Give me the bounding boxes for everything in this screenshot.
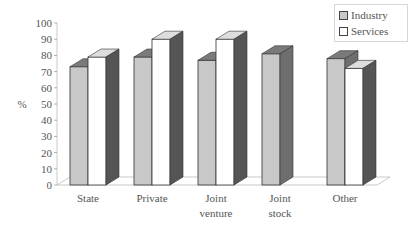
y-tick-label: 0 xyxy=(47,179,53,191)
y-tick-label: 70 xyxy=(41,66,53,78)
legend-label: Industry xyxy=(351,9,388,21)
y-tick-label: 50 xyxy=(41,98,53,110)
bar-side xyxy=(170,31,183,185)
bar-side xyxy=(234,31,247,185)
y-tick-label: 80 xyxy=(41,49,53,61)
y-axis-label: % xyxy=(17,98,26,110)
y-tick-label: 30 xyxy=(41,130,53,142)
bar-side xyxy=(106,49,119,185)
services-swatch-icon xyxy=(339,27,348,36)
bar-services-joint-venture xyxy=(216,39,234,185)
bar-side xyxy=(280,46,293,185)
bar-side xyxy=(363,60,376,185)
y-tick-label: 10 xyxy=(41,163,53,175)
x-tick-label: Joint xyxy=(205,192,226,204)
bar-services-other xyxy=(345,68,363,185)
y-tick-label: 90 xyxy=(41,33,53,45)
bar-industry-private xyxy=(134,57,152,185)
x-tick-label: stock xyxy=(268,207,292,219)
bar-industry-state xyxy=(70,67,88,185)
chart-legend: Industry Services xyxy=(334,4,408,42)
bar-industry-joint-venture xyxy=(198,60,216,185)
y-tick-label: 20 xyxy=(41,147,53,159)
bar-services-private xyxy=(152,39,170,185)
x-tick-label: Joint xyxy=(269,192,290,204)
bar-services-state xyxy=(88,57,106,185)
bar-industry-joint-stock xyxy=(262,54,280,185)
y-tick-label: 100 xyxy=(36,17,53,29)
legend-item-industry: Industry xyxy=(339,9,388,21)
industry-swatch-icon xyxy=(339,11,348,20)
bar-industry-other xyxy=(327,59,345,185)
x-tick-label: State xyxy=(77,192,99,204)
y-tick-label: 40 xyxy=(41,114,53,126)
x-tick-label: Other xyxy=(332,192,357,204)
y-tick-label: 60 xyxy=(41,82,53,94)
legend-item-services: Services xyxy=(339,25,388,37)
legend-label: Services xyxy=(351,25,388,37)
x-tick-label: Private xyxy=(136,192,167,204)
x-tick-label: venture xyxy=(200,207,233,219)
